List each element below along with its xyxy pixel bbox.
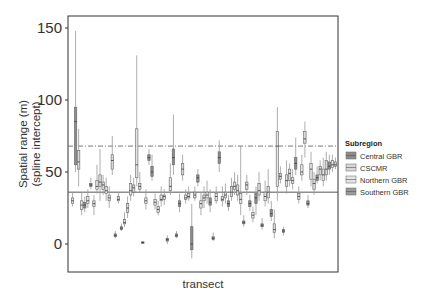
legend-item: CSCMR xyxy=(346,164,388,173)
legend: Subregion Central GBRCSCMRNorthern GBRSo… xyxy=(345,139,409,197)
legend-label: Southern GBR xyxy=(360,188,409,197)
y-axis-label-line2: (spline intercept) xyxy=(30,101,42,186)
box xyxy=(142,241,144,244)
legend-item: Northern GBR xyxy=(346,176,408,185)
legend-title: Subregion xyxy=(345,139,383,148)
legend-label: Central GBR xyxy=(360,152,403,161)
legend-item: Central GBR xyxy=(346,152,403,161)
y-tick-label: 150 xyxy=(37,19,62,36)
y-tick-label: 0 xyxy=(54,235,62,252)
y-axis-label-line1: Spatial range (m) xyxy=(17,100,29,188)
plot-panel xyxy=(68,16,338,272)
boxplot-chart: 050100150 Spatial range (m) (spline inte… xyxy=(0,0,424,299)
legend-label: Northern GBR xyxy=(360,176,408,185)
y-tick-label: 50 xyxy=(45,163,62,180)
legend-item: Southern GBR xyxy=(346,188,409,197)
legend-label: CSCMR xyxy=(360,164,388,173)
x-axis-label: transect xyxy=(183,278,225,290)
